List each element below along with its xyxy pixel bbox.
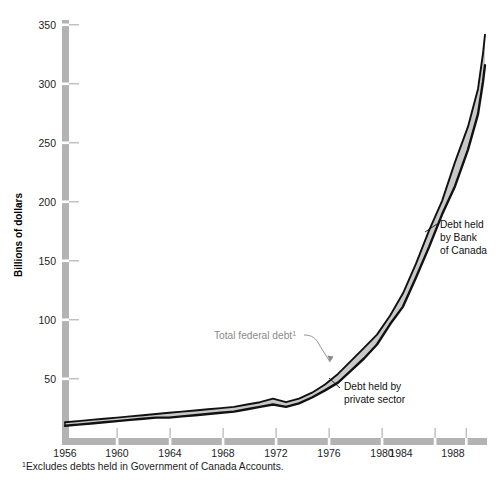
y-axis-gap [62, 260, 69, 263]
y-axis-gap [62, 24, 69, 27]
footnote: 1Excludes debts held in Government of Ca… [22, 461, 284, 473]
x-axis-gap [328, 438, 331, 445]
x-axis-bar [62, 438, 487, 445]
annotation-total-federal-debt-label: Total federal debt1 [214, 330, 296, 342]
annotation-bank-of-canada-line1: Debt held [440, 219, 484, 230]
x-tick-label: 1956 [53, 447, 77, 459]
y-axis-gap [62, 83, 69, 86]
x-tick-label: 1984 [389, 447, 413, 459]
x-tick-label: 1972 [264, 447, 288, 459]
x-tick-label: 1968 [211, 447, 235, 459]
y-tick-label: 300 [38, 78, 56, 90]
bank-of-canada-band [65, 35, 485, 426]
x-tick-label: 1960 [105, 447, 129, 459]
x-axis-gap [434, 438, 437, 445]
chart-figure: 350 300 250 200 150 100 50 Billions of d… [0, 0, 499, 482]
annotation-total-federal-debt-leader [304, 335, 330, 362]
plot-area [65, 35, 485, 426]
y-tick-label: 150 [38, 255, 56, 267]
annotation-bank-of-canada-line2: by Bank [440, 232, 478, 243]
annotation-total-federal-debt: Total federal debt1 [214, 330, 334, 363]
annotation-private-sector-line1: Debt held by [344, 381, 402, 392]
x-axis: 1956 1960 1964 1968 1972 1976 1980 1984 … [53, 428, 487, 459]
x-tick-label: 1964 [158, 447, 182, 459]
x-axis-gap [381, 438, 384, 445]
y-axis-gap [62, 201, 69, 204]
y-tick-label: 200 [38, 196, 56, 208]
y-axis-gap [62, 319, 69, 322]
x-tick-label: 1976 [317, 447, 341, 459]
x-axis-gap [222, 438, 225, 445]
annotation-private-sector-line2: private sector [344, 394, 406, 405]
y-tick-label: 350 [38, 19, 56, 31]
annotation-private-sector: Debt held by private sector [329, 378, 406, 405]
x-axis-gap [116, 438, 119, 445]
y-axis-gap [62, 378, 69, 381]
y-axis-title: Billions of dollars [13, 193, 24, 277]
y-tick-label: 50 [44, 373, 56, 385]
chart-svg: 350 300 250 200 150 100 50 Billions of d… [0, 0, 499, 482]
y-axis-gap [62, 142, 69, 145]
private-sector-debt-line [65, 65, 485, 426]
x-axis-gap [169, 438, 172, 445]
total-federal-debt-line [65, 35, 485, 423]
y-tick-label: 100 [38, 314, 56, 326]
x-axis-gap [465, 438, 468, 445]
annotation-bank-of-canada-line3: of Canada [440, 245, 487, 256]
y-tick-label: 250 [38, 137, 56, 149]
x-axis-gap [275, 438, 278, 445]
x-tick-label: 1988 [441, 447, 465, 459]
y-axis: 350 300 250 200 150 100 50 [38, 19, 79, 438]
